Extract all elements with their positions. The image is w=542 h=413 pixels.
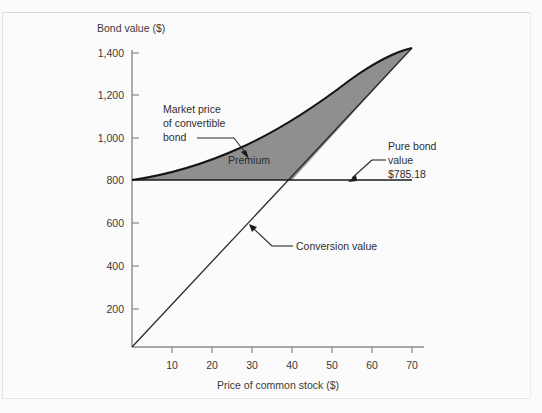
y-axis-ticks: [132, 53, 139, 309]
y-tick-label-1400: 1,400: [98, 47, 124, 59]
market-price-annotation-line-3: bond: [163, 131, 187, 143]
pure-bond-value-annotation: Pure bond value $785.18: [348, 140, 437, 182]
conversion-value-annotation: Conversion value: [249, 224, 377, 252]
x-tick-label-40: 40: [286, 359, 298, 371]
y-tick-label-600: 600: [106, 217, 124, 229]
premium-region-label: Premium: [228, 154, 270, 166]
y-tick-label-400: 400: [106, 260, 124, 272]
x-tick-label-50: 50: [326, 359, 338, 371]
y-tick-label-200: 200: [106, 303, 124, 315]
pure-bond-value-annotation-line-2: value: [388, 154, 413, 166]
x-tick-label-60: 60: [366, 359, 378, 371]
y-tick-label-1000: 1,000: [98, 132, 124, 144]
chart-figure: 1,400 1,200 1,000 800 600 400 200 10 20 …: [0, 0, 542, 413]
x-tick-label-70: 70: [406, 359, 418, 371]
x-tick-label-30: 30: [246, 359, 258, 371]
y-tick-label-800: 800: [106, 174, 124, 186]
market-price-annotation-line-2: of convertible: [163, 117, 226, 129]
x-tick-label-10: 10: [166, 359, 178, 371]
y-axis-title: Bond value ($): [97, 22, 165, 34]
pure-bond-value-annotation-line-3: $785.18: [388, 168, 426, 180]
conversion-value-annotation-label: Conversion value: [296, 240, 377, 252]
pure-bond-value-annotation-line-1: Pure bond: [388, 140, 437, 152]
chart-plot-area: 1,400 1,200 1,000 800 600 400 200 10 20 …: [0, 0, 542, 413]
conversion-value-annotation-arrow-shaft: [253, 228, 272, 246]
pure-bond-value-annotation-arrow-shaft: [352, 160, 372, 178]
x-axis-title: Price of common stock ($): [217, 379, 339, 391]
market-price-annotation-line-1: Market price: [163, 103, 221, 115]
pure-bond-value-annotation-arrowhead: [348, 175, 357, 182]
x-tick-label-20: 20: [206, 359, 218, 371]
y-tick-label-1200: 1,200: [98, 89, 124, 101]
x-axis-ticks: [172, 347, 412, 353]
conversion-value-line: [132, 48, 412, 347]
